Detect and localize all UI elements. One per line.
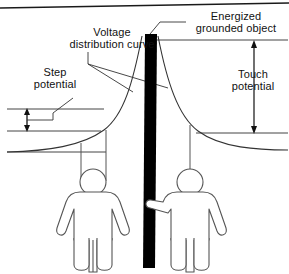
label-voltage-distribution-curve: Voltage distribution curve: [60, 26, 164, 50]
voltage-curve-leader-left: [88, 52, 133, 92]
person-step-potential: [57, 169, 130, 272]
label-energized-grounded-object: Energized grounded object: [186, 10, 286, 34]
voltage-curve-left: [7, 36, 142, 152]
top-border-line: [0, 3, 289, 8]
label-step-potential: Step potential: [24, 66, 86, 90]
energized-grounded-pole: [143, 34, 157, 268]
left-figure-head: [80, 169, 106, 195]
step-touch-potential-diagram: Voltage distribution curve Energized gro…: [0, 0, 289, 274]
label-touch-potential: Touch potential: [222, 68, 284, 92]
right-figure-head: [177, 169, 203, 195]
person-touch-potential: [146, 169, 226, 272]
